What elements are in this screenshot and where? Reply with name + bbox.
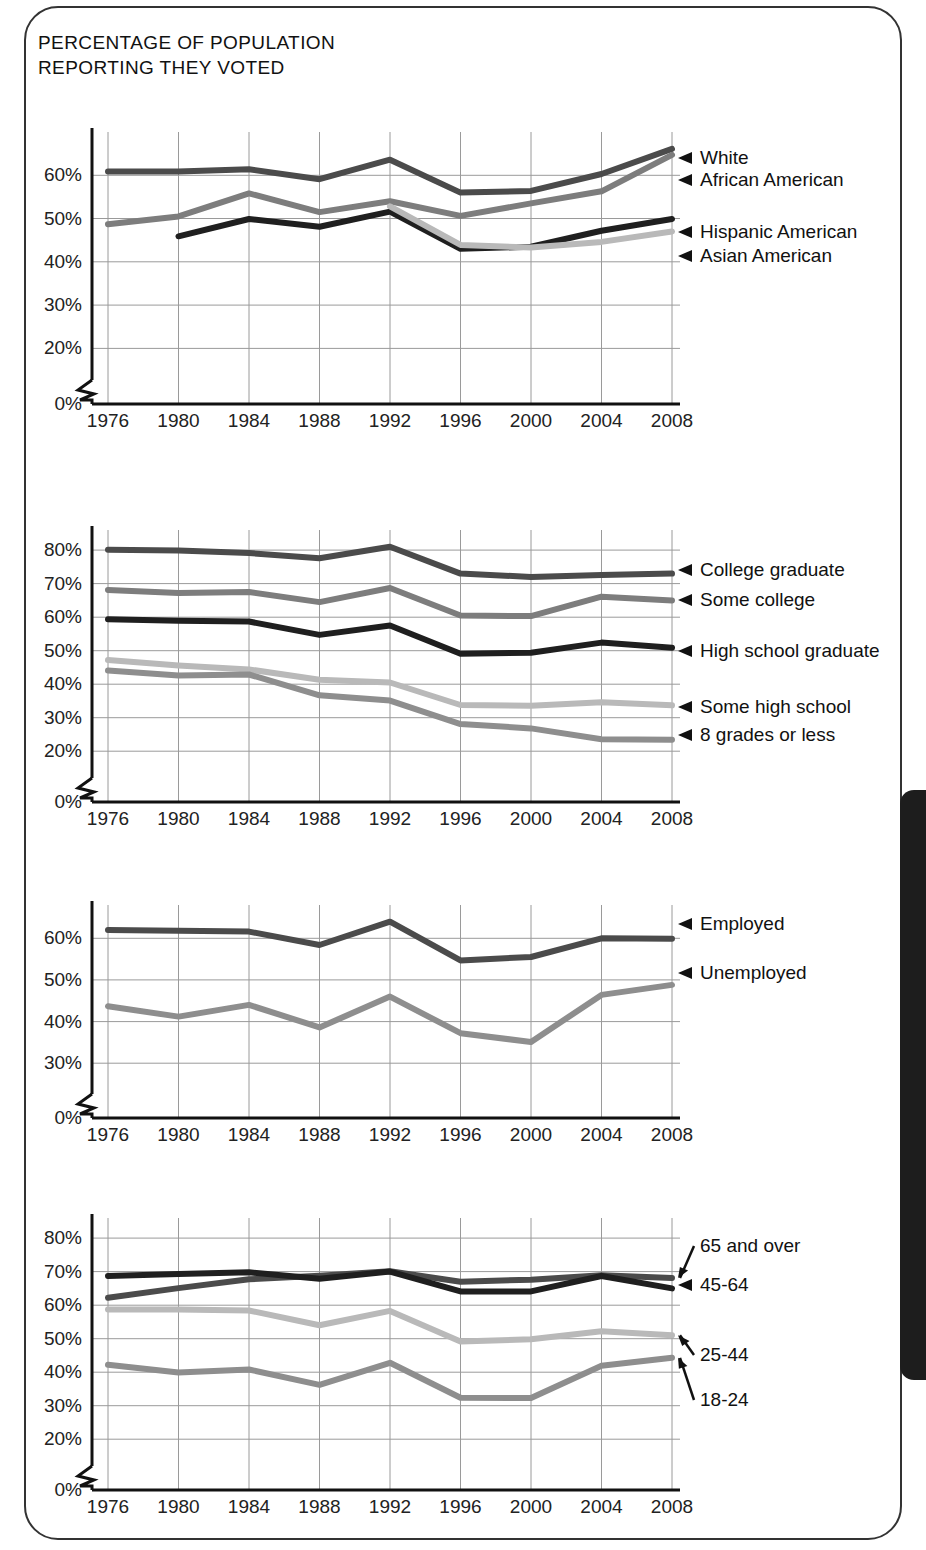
x-axis-tick-label: 1976 bbox=[87, 1496, 129, 1518]
y-axis-tick-label: 60% bbox=[0, 164, 82, 186]
x-axis-tick-label: 1980 bbox=[157, 808, 199, 830]
x-axis-tick-label: 2000 bbox=[510, 808, 552, 830]
x-axis-tick-label: 1988 bbox=[298, 410, 340, 432]
y-axis-tick-label: 20% bbox=[0, 337, 82, 359]
y-axis-tick-label: 20% bbox=[0, 1428, 82, 1450]
x-axis-tick-label: 1996 bbox=[439, 410, 481, 432]
x-axis-tick-label: 2000 bbox=[510, 410, 552, 432]
series-label: 8 grades or less bbox=[700, 724, 835, 746]
series-label: High school graduate bbox=[700, 640, 880, 662]
series-label: 65 and over bbox=[700, 1235, 800, 1257]
x-axis-tick-label: 1984 bbox=[228, 1496, 270, 1518]
x-axis-tick-label: 1984 bbox=[228, 410, 270, 432]
y-axis-tick-label: 40% bbox=[0, 673, 82, 695]
y-axis-tick-label: 0% bbox=[0, 1479, 82, 1501]
y-axis-tick-label: 50% bbox=[0, 1328, 82, 1350]
x-axis-tick-label: 1996 bbox=[439, 808, 481, 830]
x-axis-tick-label: 1992 bbox=[369, 808, 411, 830]
series-label: Employed bbox=[700, 913, 785, 935]
page-edge-tab bbox=[900, 790, 926, 1380]
y-axis-tick-label: 0% bbox=[0, 393, 82, 415]
x-axis-tick-label: 1984 bbox=[228, 808, 270, 830]
y-axis-tick-label: 80% bbox=[0, 539, 82, 561]
y-axis-tick-label: 0% bbox=[0, 791, 82, 813]
y-axis-tick-label: 60% bbox=[0, 606, 82, 628]
y-axis-tick-label: 70% bbox=[0, 573, 82, 595]
x-axis-tick-label: 1996 bbox=[439, 1124, 481, 1146]
y-axis-tick-label: 40% bbox=[0, 251, 82, 273]
y-axis-tick-label: 0% bbox=[0, 1107, 82, 1129]
x-axis-tick-label: 2008 bbox=[651, 410, 693, 432]
y-axis-tick-label: 80% bbox=[0, 1227, 82, 1249]
x-axis-tick-label: 2008 bbox=[651, 1124, 693, 1146]
x-axis-tick-label: 1980 bbox=[157, 410, 199, 432]
y-axis-tick-label: 30% bbox=[0, 294, 82, 316]
x-axis-tick-label: 1988 bbox=[298, 1496, 340, 1518]
series-label: African American bbox=[700, 169, 844, 191]
x-axis-tick-label: 1976 bbox=[87, 1124, 129, 1146]
series-label: 18-24 bbox=[700, 1389, 749, 1411]
x-axis-tick-label: 1992 bbox=[369, 1496, 411, 1518]
x-axis-tick-label: 1992 bbox=[369, 1124, 411, 1146]
series-label: Hispanic American bbox=[700, 221, 857, 243]
x-axis-tick-label: 2008 bbox=[651, 1496, 693, 1518]
y-axis-tick-label: 60% bbox=[0, 927, 82, 949]
y-axis-tick-label: 70% bbox=[0, 1261, 82, 1283]
x-axis-tick-label: 1976 bbox=[87, 808, 129, 830]
y-axis-tick-label: 50% bbox=[0, 640, 82, 662]
x-axis-tick-label: 2004 bbox=[580, 1496, 622, 1518]
y-axis-tick-label: 30% bbox=[0, 1052, 82, 1074]
y-axis-tick-label: 40% bbox=[0, 1011, 82, 1033]
x-axis-tick-label: 1992 bbox=[369, 410, 411, 432]
series-label: 45-64 bbox=[700, 1274, 749, 1296]
x-axis-tick-label: 2004 bbox=[580, 1124, 622, 1146]
series-label: Unemployed bbox=[700, 962, 807, 984]
series-label: Asian American bbox=[700, 245, 832, 267]
x-axis-tick-label: 1980 bbox=[157, 1496, 199, 1518]
x-axis-tick-label: 2000 bbox=[510, 1496, 552, 1518]
x-axis-tick-label: 1984 bbox=[228, 1124, 270, 1146]
series-label: White bbox=[700, 147, 749, 169]
x-axis-tick-label: 1996 bbox=[439, 1496, 481, 1518]
series-label: Some high school bbox=[700, 696, 851, 718]
x-axis-tick-label: 1980 bbox=[157, 1124, 199, 1146]
y-axis-tick-label: 30% bbox=[0, 1395, 82, 1417]
y-axis-tick-label: 60% bbox=[0, 1294, 82, 1316]
series-label: College graduate bbox=[700, 559, 845, 581]
x-axis-tick-label: 2000 bbox=[510, 1124, 552, 1146]
y-axis-tick-label: 40% bbox=[0, 1361, 82, 1383]
page-title: PERCENTAGE OF POPULATION REPORTING THEY … bbox=[38, 30, 335, 80]
y-axis-tick-label: 50% bbox=[0, 969, 82, 991]
x-axis-tick-label: 2008 bbox=[651, 808, 693, 830]
x-axis-tick-label: 1988 bbox=[298, 808, 340, 830]
x-axis-tick-label: 1988 bbox=[298, 1124, 340, 1146]
x-axis-tick-label: 1976 bbox=[87, 410, 129, 432]
y-axis-tick-label: 30% bbox=[0, 707, 82, 729]
x-axis-tick-label: 2004 bbox=[580, 808, 622, 830]
x-axis-tick-label: 2004 bbox=[580, 410, 622, 432]
series-label: 25-44 bbox=[700, 1344, 749, 1366]
y-axis-tick-label: 20% bbox=[0, 740, 82, 762]
series-label: Some college bbox=[700, 589, 815, 611]
y-axis-tick-label: 50% bbox=[0, 208, 82, 230]
